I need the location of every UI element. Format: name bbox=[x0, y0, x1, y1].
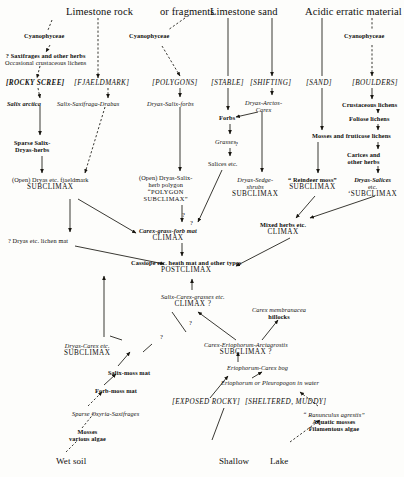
node-cyanophyceae-1: Cyanophyceae bbox=[24, 33, 64, 40]
node-sparse-oxyria: Sparse Oxyria-Saxifrages bbox=[72, 411, 139, 418]
node-sparse-salix-dryas: Sparse Salix-Dryas-herbs bbox=[14, 140, 50, 154]
node-mosses-algae: Mossesvarious algae bbox=[69, 429, 106, 443]
node-reindeer-moss: “ Reindeer moss”SUBCLIMAX bbox=[288, 177, 337, 192]
node-salix-carex-grasses: Salix-Carex-grasses etc.CLIMAX ? bbox=[161, 294, 225, 309]
node-grasses: Grasses bbox=[215, 139, 236, 146]
edge-scree-to-salix bbox=[38, 88, 40, 98]
node-wet-soil: Wet soil bbox=[56, 457, 86, 467]
edge-salices-to-carexgrass bbox=[198, 170, 222, 222]
node-line: hillocks bbox=[252, 314, 306, 321]
header-limestone-sand: Limestone sand bbox=[210, 6, 278, 17]
node-line: Cyanophyceae bbox=[344, 33, 384, 40]
edge-reindeer-to-mixed bbox=[296, 196, 315, 218]
edge-q-to-climax bbox=[172, 312, 186, 332]
node-eriophorum-pleuropogon: Eriophorum or Pleuropogon in water bbox=[221, 380, 319, 387]
node-line: Cyanophyceae bbox=[24, 33, 64, 40]
node-line: SUBCLIMAX bbox=[12, 184, 89, 192]
bracket-shifting: [SHIFTING] bbox=[250, 80, 292, 88]
edge-water-to-bog bbox=[252, 372, 262, 378]
node-crustaceous-lichens: Crustaceous lichens bbox=[342, 102, 397, 109]
node-line: POSTCLIMAX bbox=[131, 267, 241, 275]
succession-diagram: Limestone rockor fragmentsLimestone sand… bbox=[0, 0, 404, 477]
node-open-dryas-fjaeldmark: (Open) Dryas etc. fjaeldmarkSUBCLIMAX bbox=[12, 177, 89, 192]
edge-herbs-to-scree bbox=[37, 66, 40, 78]
edge-carexerio-to-hillocks bbox=[262, 320, 278, 340]
edge-shallow-to-exposedrocky bbox=[212, 408, 224, 440]
node-forbs: Forbs bbox=[219, 115, 235, 122]
node-line: Dryas-herbs bbox=[14, 147, 50, 154]
node-line: Crustaceous lichens bbox=[342, 102, 397, 109]
bracket-fjaeldmark: [FJAELDMARK] bbox=[74, 80, 130, 88]
node-line: SUBCLIMAX bbox=[232, 191, 278, 199]
node-eriophorum-carex-bog: Eriophorum-Carex bog bbox=[227, 365, 288, 372]
edge-rock-to-cyano1 bbox=[48, 20, 52, 30]
node-line: Eriophorum-Carex bog bbox=[227, 365, 288, 372]
node-salices-etc: Salices etc. bbox=[208, 161, 238, 168]
node-cassiope-postclimax: Cassiope etc. heath mat and other typesP… bbox=[131, 260, 241, 275]
node-line: Grasses bbox=[215, 139, 236, 146]
node-line: CLIMAX ? bbox=[161, 301, 225, 309]
node-forb-moss-mat: Forb-moss mat bbox=[95, 388, 137, 395]
edge-openfj-to-carexgrass bbox=[78, 199, 136, 233]
node-salix-saxifraga-drabas: Salix-Saxifraga-Drabas bbox=[57, 101, 119, 108]
edge-join-dryascarex bbox=[110, 336, 122, 340]
node-carex-grass-forb-mat: Carex-grass-forb matCLIMAX bbox=[139, 228, 197, 243]
edge-salixmoss-to-dryascarex bbox=[118, 352, 130, 366]
edge-dryassalices-to-mixed bbox=[310, 196, 375, 218]
node-line: other herbs bbox=[347, 159, 380, 166]
node-mosses-fruticose: Mosses and fruticose lichens bbox=[312, 133, 391, 140]
node-saxifrages-herbs: ? Saxifrages and other herbsOccasional c… bbox=[5, 53, 86, 67]
node-line: Salix-Saxifraga-Drabas bbox=[57, 101, 119, 108]
node-shallow: Shallow bbox=[219, 457, 249, 467]
node-line: ‘SUBCLIMAX bbox=[348, 191, 397, 199]
question-mark-q-polygon: ? bbox=[182, 211, 185, 218]
node-cyanophyceae-2: Cyanophyceae bbox=[129, 33, 169, 40]
node-line: Lake bbox=[270, 457, 288, 467]
question-mark-q-dryas-carex: ? bbox=[160, 333, 163, 340]
edge-carexerio-to-salixcarex bbox=[198, 312, 236, 340]
question-mark-q-climax-link: ? bbox=[189, 319, 192, 326]
edge-cyano2-to-polygons bbox=[162, 46, 180, 76]
node-dryas-salices-subclimax: Dryas-Salicesetc.‘SUBCLIMAX bbox=[348, 177, 397, 198]
node-line: Sparse Oxyria-Saxifrages bbox=[72, 411, 139, 418]
bracket-sheltered-muddy: [SHELTERED, MUDDY] bbox=[245, 399, 326, 407]
node-dryas-carex-subclimax: Dryas-Carex etc.SUBCLIMAX bbox=[64, 343, 110, 358]
bracket-sand: [SAND] bbox=[306, 80, 332, 88]
node-line: Mosses and fruticose lichens bbox=[312, 133, 391, 140]
node-dryas-lichen-mat: ? Dryas etc. lichen mat bbox=[8, 238, 68, 245]
node-line: Foliose lichens bbox=[349, 116, 390, 123]
header-or-fragments: or fragments bbox=[160, 6, 215, 17]
node-line: SUBCLIMAX” bbox=[139, 196, 192, 203]
edge-cyano1-to-herbs bbox=[46, 45, 50, 52]
node-line: Salix arctica bbox=[7, 101, 41, 108]
header-limestone-rock: Limestone rock bbox=[66, 6, 133, 17]
node-mixed-herbs-climax: Mixed herbs etc.CLIMAX bbox=[260, 222, 306, 237]
node-carex-membranacea: Carex membranaceahillocks bbox=[252, 307, 306, 321]
node-line: Cyanophyceae bbox=[129, 33, 169, 40]
node-line: SUBCLIMAX bbox=[64, 350, 110, 358]
node-dryas-arctos-carex: Dryas-Arctos-Carex bbox=[245, 100, 282, 114]
edge-fragments-to-cyano2 bbox=[168, 18, 185, 30]
node-line: Carex bbox=[245, 107, 282, 114]
node-line: Wet soil bbox=[56, 457, 86, 467]
node-line: ? Dryas etc. lichen mat bbox=[8, 238, 68, 245]
question-mark-q-stable-shift: ? bbox=[235, 140, 238, 147]
node-cyanophyceae-3: Cyanophyceae bbox=[344, 33, 384, 40]
node-line: Forb-moss mat bbox=[95, 388, 137, 395]
question-mark-q-carex-grass: ? bbox=[190, 219, 193, 226]
node-line: Filamentous algae bbox=[303, 426, 365, 433]
node-salix-arctica: Salix arctica bbox=[7, 101, 41, 108]
node-salix-moss-mat: Salix-moss mat bbox=[108, 370, 150, 377]
bracket-rocky-scree: [ROCKY SCREE] bbox=[6, 80, 65, 88]
node-line: SUBCLIMAX bbox=[288, 184, 337, 192]
node-foliose-lichens: Foliose lichens bbox=[349, 116, 390, 123]
bracket-boulders: [BOULDERS] bbox=[352, 80, 398, 88]
bracket-stable: [STABLE] bbox=[211, 80, 244, 88]
node-line: Salices etc. bbox=[208, 161, 238, 168]
node-ranunculus-group: “ Ranunculus agrestis”Aquatic mossesFila… bbox=[303, 412, 365, 432]
node-line: Shallow bbox=[219, 457, 249, 467]
node-line: various algae bbox=[69, 436, 106, 443]
node-dryas-sedge-shrubs: Dryas-Sedge-shrubsSUBCLIMAX bbox=[232, 177, 278, 198]
bracket-exposed-rocky: [EXPOSED ROCKY] bbox=[172, 399, 240, 407]
node-line: CLIMAX bbox=[139, 235, 197, 243]
